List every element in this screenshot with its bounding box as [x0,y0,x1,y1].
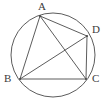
vertex-point-C [85,78,87,80]
vertex-label-b: B [4,73,11,84]
vertex-label-d: D [92,24,100,35]
vertex-point-B [19,78,21,80]
vertex-label-a: A [38,1,46,12]
geometry-canvas [0,0,108,105]
geometry-figure: A B C D [0,0,108,105]
circumcircle [11,13,95,97]
side-DC [86,36,87,79]
vertex-point-A [39,15,41,17]
vertex-point-D [86,35,88,37]
diagonal-BD [20,36,87,79]
vertex-label-c: C [92,73,99,84]
